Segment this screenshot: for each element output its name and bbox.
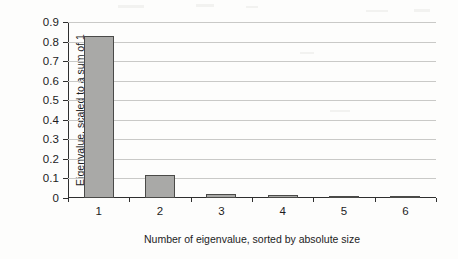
y-axis-tick: [63, 42, 68, 43]
plot-area: 0.90.80.70.60.50.40.30.20.10123456: [68, 22, 436, 198]
y-axis-tick: [63, 139, 68, 140]
gridline: [68, 61, 436, 62]
x-axis-tick: [252, 198, 253, 202]
y-axis-tick-label: 0.1: [43, 172, 59, 184]
x-axis-tick-label: 5: [341, 205, 347, 217]
x-axis-tick-label: 4: [279, 205, 285, 217]
y-axis-tick-label: 0.8: [43, 36, 59, 48]
y-axis-tick: [63, 100, 68, 101]
bar: [390, 196, 420, 198]
y-axis-tick-label: 0.5: [43, 94, 59, 106]
scan-artifact: [118, 5, 144, 8]
chart-figure: Eigenvalue, scaled to a sum of 1 0.90.80…: [0, 0, 458, 259]
x-axis-tick: [375, 198, 376, 202]
gridline: [68, 22, 436, 23]
x-axis-tick: [313, 198, 314, 202]
y-axis-tick: [63, 81, 68, 82]
bar: [268, 195, 298, 198]
gridline: [68, 42, 436, 43]
scan-artifact: [366, 10, 388, 12]
y-axis-tick-label: 0.7: [43, 55, 59, 67]
x-axis-tick: [436, 198, 437, 202]
y-axis-line: [68, 22, 69, 198]
gridline: [68, 100, 436, 101]
y-axis-tick: [63, 120, 68, 121]
y-axis-title-container: Eigenvalue, scaled to a sum of 1: [0, 20, 24, 200]
x-axis-tick-label: 3: [218, 205, 224, 217]
y-axis-tick-label: 0.3: [43, 133, 59, 145]
gridline: [68, 178, 436, 179]
gridline: [68, 120, 436, 121]
x-axis-title: Number of eigenvalue, sorted by absolute…: [68, 233, 436, 245]
gridline: [68, 81, 436, 82]
y-axis-tick: [63, 159, 68, 160]
scan-artifact: [414, 9, 430, 12]
gridline: [68, 139, 436, 140]
x-axis-tick: [191, 198, 192, 202]
x-axis-tick: [129, 198, 130, 202]
gridline: [68, 159, 436, 160]
bar: [329, 196, 359, 198]
y-axis-tick: [63, 22, 68, 23]
x-axis-tick-label: 2: [157, 205, 163, 217]
x-axis-tick-label: 1: [95, 205, 101, 217]
x-axis-tick-label: 6: [402, 205, 408, 217]
x-axis-tick: [68, 198, 69, 202]
y-axis-tick-label: 0.2: [43, 153, 59, 165]
y-axis-tick-label: 0: [53, 192, 60, 204]
scan-artifact: [246, 6, 258, 8]
y-axis-tick-label: 0.6: [43, 75, 59, 87]
bar: [206, 194, 236, 198]
y-axis-tick-label: 0.9: [43, 16, 59, 28]
scan-artifact: [196, 4, 214, 7]
bar: [84, 36, 114, 198]
y-axis-tick: [63, 61, 68, 62]
y-axis-tick-label: 0.4: [43, 114, 59, 126]
y-axis-tick: [63, 178, 68, 179]
bar: [145, 175, 175, 198]
